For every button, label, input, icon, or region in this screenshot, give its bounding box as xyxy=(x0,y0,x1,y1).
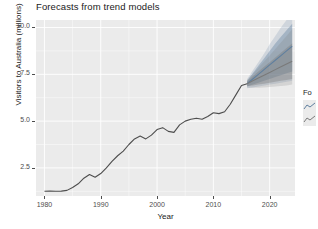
plot-panel xyxy=(36,20,295,196)
y-tick-mark xyxy=(32,121,35,122)
x-axis-title: Year xyxy=(36,212,295,221)
x-tick-label: 1990 xyxy=(93,201,109,208)
x-tick-mark xyxy=(101,196,102,199)
y-axis-title-container: Visitors to Australia (millions) xyxy=(0,0,14,229)
chart-svg xyxy=(36,20,295,196)
legend: Fo xyxy=(303,88,318,126)
x-tick-label: 2000 xyxy=(149,201,165,208)
gridlines-minor xyxy=(36,20,295,196)
x-tick-mark xyxy=(157,196,158,199)
x-tick-mark xyxy=(270,196,271,199)
legend-title: Fo xyxy=(303,88,318,97)
historical-series-line xyxy=(44,84,247,192)
x-tick-label: 2010 xyxy=(206,201,222,208)
y-tick-label: 10.0 xyxy=(0,22,30,29)
legend-line-icon xyxy=(303,113,316,126)
chart-root: Forecasts from trend models Visitors to … xyxy=(0,0,318,229)
y-tick-label: 7.5 xyxy=(0,69,30,76)
gridlines-major xyxy=(36,20,295,196)
y-tick-label: 5.0 xyxy=(0,116,30,123)
y-tick-mark xyxy=(32,168,35,169)
y-tick-mark xyxy=(32,27,35,28)
y-tick-mark xyxy=(32,74,35,75)
x-tick-label: 2020 xyxy=(262,201,278,208)
x-tick-mark xyxy=(213,196,214,199)
page-title: Forecasts from trend models xyxy=(36,1,160,12)
y-tick-label: 2.5 xyxy=(0,163,30,170)
x-tick-label: 1980 xyxy=(37,201,53,208)
x-tick-mark xyxy=(44,196,45,199)
y-axis-title: Visitors to Australia (millions) xyxy=(14,0,23,125)
legend-item[interactable] xyxy=(303,113,318,126)
legend-line-icon xyxy=(303,100,316,113)
legend-item[interactable] xyxy=(303,100,318,113)
